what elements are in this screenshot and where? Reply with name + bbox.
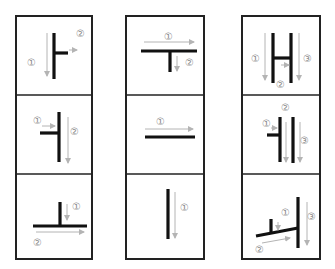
cell-stub-and-two-verticals: ① ② ③ (262, 102, 309, 163)
label-2: ② (255, 244, 264, 255)
label-3: ③ (303, 53, 312, 64)
stroke-order-diagram: ① ② ① ② ① ② ① ② ① ① (0, 0, 335, 269)
label-1: ① (281, 207, 290, 218)
label-2: ② (276, 79, 285, 90)
label-2: ② (70, 126, 79, 137)
label-1: ① (33, 115, 42, 126)
cell-inverted-t: ① ② (33, 201, 87, 248)
label-2: ② (33, 237, 42, 248)
cell-t-shape: ① ② (141, 31, 197, 72)
label-1: ① (156, 116, 165, 127)
label-1: ① (72, 201, 81, 212)
label-1: ① (164, 31, 173, 42)
cell-slanted-combination: ① ② ③ (255, 197, 316, 255)
label-2: ② (281, 102, 290, 113)
label-3: ③ (300, 135, 309, 146)
label-2: ② (185, 57, 194, 68)
label-1: ① (251, 53, 260, 64)
label-1: ① (262, 118, 271, 129)
label-1: ① (27, 57, 36, 68)
label-3: ③ (307, 211, 316, 222)
label-2: ② (76, 28, 85, 39)
cell-vertical-with-left-stub: ① ② (33, 112, 79, 163)
cell-vertical-with-right-stub: ① ② (27, 28, 85, 79)
label-1: ① (180, 202, 189, 213)
cell-vertical-line: ① (168, 189, 189, 239)
cell-horizontal-line: ① (145, 116, 195, 137)
cell-h-shape: ① ② ③ (251, 33, 312, 90)
